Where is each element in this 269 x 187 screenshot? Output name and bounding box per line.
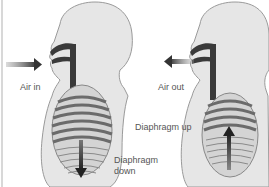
trachea xyxy=(210,44,216,100)
arrow-head-right-icon xyxy=(34,58,42,71)
diaphragm-down-arrow xyxy=(79,140,83,170)
air-in-arrow xyxy=(6,62,36,67)
air-out-arrow xyxy=(170,59,194,64)
air-out-label: Air out xyxy=(158,82,184,92)
air-in-label: Air in xyxy=(20,82,41,92)
breathing-diagram: Air in Diaphragm down Air out Diaphragm … xyxy=(0,0,269,187)
exhale-figure xyxy=(164,2,269,187)
diaphragm-down-label-line2: down xyxy=(114,166,136,176)
diaphragm-up-arrow xyxy=(227,134,231,170)
diaphragm-up-label: Diaphragm up xyxy=(135,122,192,132)
arrow-head-left-icon xyxy=(164,55,172,68)
diaphragm-down-label-line1: Diaphragm xyxy=(114,155,158,165)
